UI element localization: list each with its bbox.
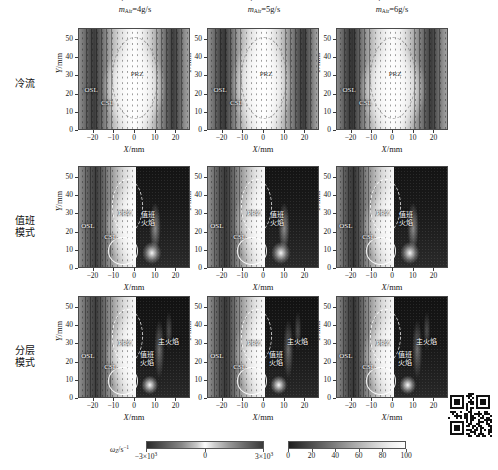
y-tick-label: 10 — [317, 375, 331, 384]
annotation-csl: CSL — [359, 99, 372, 107]
y-tick-mark — [333, 250, 336, 251]
y-tick-label: 40 — [59, 190, 73, 199]
pilot-flame-line2: 火焰 — [398, 359, 420, 367]
pilot-flame-line1: 值班 — [399, 211, 421, 219]
row-label-text: 冷流 — [15, 78, 35, 89]
y-tick-mark — [333, 398, 336, 399]
x-tick-label: −20 — [84, 401, 102, 410]
row-label-stratified-mode: 分层 模式 — [5, 345, 45, 369]
y-tick-mark — [75, 325, 78, 326]
colorbar-intensity-label: 0 — [277, 451, 299, 460]
y-tick-mark — [75, 195, 78, 196]
recirculation-circle — [108, 367, 139, 395]
x-tick-label: 20 — [424, 401, 442, 410]
y-tick-mark — [204, 307, 207, 308]
y-tick-mark — [333, 177, 336, 178]
x-tick-label: 20 — [424, 271, 442, 280]
annotation-pilot-flame: 值班火焰 — [399, 211, 421, 227]
column-header-4gs: mAir=4g/s — [80, 4, 190, 14]
x-axis-title-cold-4gs: X/mm — [104, 144, 164, 154]
y-tick-label: 10 — [59, 375, 73, 384]
annotation-pilot-flame: 值班火焰 — [140, 351, 162, 367]
panel-strat-6gs: PRZOSLCSL值班火焰主火焰 — [336, 296, 448, 398]
pilot-flame-line2: 火焰 — [269, 359, 291, 367]
row-label-pilot-mode: 值班 模式 — [5, 215, 45, 239]
y-tick-mark — [333, 112, 336, 113]
y-tick-mark — [75, 268, 78, 269]
omega-exponent: −1 — [123, 444, 129, 450]
annotation-prz: PRZ — [260, 70, 273, 78]
x-axis-title-pilot-6gs: X/mm — [362, 282, 422, 292]
x-axis-title-cold-5gs: X/mm — [233, 144, 293, 154]
x-tick-label: −10 — [362, 271, 380, 280]
colorbar-intensity-label: 80 — [371, 451, 393, 460]
y-tick-mark — [75, 57, 78, 58]
x-tick-label: 10 — [404, 133, 422, 142]
annotation-pilot-flame: 值班火焰 — [398, 351, 420, 367]
y-tick-mark — [75, 380, 78, 381]
panel-strat-5gs: PRZOSLCSL值班火焰主火焰 — [207, 296, 319, 398]
y-tick-label: 30 — [188, 208, 202, 217]
y-tick-label: 0 — [59, 125, 73, 134]
y-tick-mark — [333, 343, 336, 344]
pilot-flame-line1: 值班 — [141, 211, 163, 219]
y-tick-mark — [75, 232, 78, 233]
y-tick-mark — [204, 232, 207, 233]
y-tick-mark — [204, 380, 207, 381]
annotation-prz: PRZ — [131, 70, 144, 78]
y-tick-label: 10 — [188, 375, 202, 384]
prz-contour — [112, 179, 143, 233]
annotation-csl: CSL — [233, 363, 246, 371]
y-tick-mark — [204, 130, 207, 131]
y-tick-label: 0 — [317, 393, 331, 402]
y-tick-label: 50 — [188, 302, 202, 311]
x-tick-label: −10 — [233, 271, 251, 280]
y-tick-mark — [75, 398, 78, 399]
x-tick-label: 10 — [275, 133, 293, 142]
y-tick-label: 20 — [188, 89, 202, 98]
x-tick-label: 0 — [383, 271, 401, 280]
pilot-flame-line2: 火焰 — [140, 359, 162, 367]
shear-streaks-right — [156, 29, 182, 129]
flame-half — [265, 297, 318, 397]
colorbar-vorticity-label-min: −3×103 — [120, 451, 172, 461]
y-tick-label: 50 — [317, 302, 331, 311]
y-tick-label: 20 — [317, 227, 331, 236]
mdot-value: =5g/s — [261, 4, 280, 14]
figure-root: mAir=4g/s mAir=5g/s mAir=6g/s 冷流 值班 模式 分… — [0, 0, 498, 470]
panel-strat-4gs: PRZOSLCSL值班火焰主火焰 — [78, 296, 190, 398]
y-tick-mark — [333, 325, 336, 326]
y-tick-mark — [204, 177, 207, 178]
x-tick-label: −10 — [104, 401, 122, 410]
prz-contour — [112, 37, 158, 119]
annotation-osl: OSL — [210, 222, 223, 230]
y-tick-label: 10 — [59, 107, 73, 116]
y-tick-mark — [75, 213, 78, 214]
annotation-csl: CSL — [233, 233, 246, 241]
recirculation-circle — [108, 237, 139, 265]
y-tick-label: 20 — [188, 357, 202, 366]
mdot-value: =6g/s — [389, 4, 408, 14]
x-tick-label: 10 — [146, 401, 164, 410]
y-tick-label: 40 — [188, 190, 202, 199]
column-header-5gs: mAir=5g/s — [209, 4, 319, 14]
y-tick-label: 20 — [59, 357, 73, 366]
y-tick-label: 20 — [59, 89, 73, 98]
x-tick-label: 0 — [125, 271, 143, 280]
tick-text: −3×10 — [135, 452, 155, 461]
annotation-prz: PRZ — [389, 70, 402, 78]
x-axis-title-pilot-5gs: X/mm — [233, 282, 293, 292]
y-tick-mark — [204, 75, 207, 76]
y-tick-mark — [204, 195, 207, 196]
panel-cold-4gs: PRZOSLCSL — [78, 28, 190, 130]
image-noise — [394, 297, 447, 397]
y-tick-label: 50 — [59, 172, 73, 181]
x-tick-label: 20 — [295, 133, 313, 142]
x-tick-label: 10 — [146, 133, 164, 142]
y-tick-mark — [333, 94, 336, 95]
y-tick-label: 30 — [188, 70, 202, 79]
x-axis-title-strat-5gs: X/mm — [233, 412, 293, 422]
pilot-flame-line1: 值班 — [398, 351, 420, 359]
x-tick-label: −20 — [213, 133, 231, 142]
x-tick-label: 20 — [295, 401, 313, 410]
